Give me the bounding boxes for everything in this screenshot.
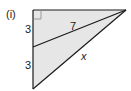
label-7: 7 xyxy=(70,20,76,32)
triangle-diagram: (i) 3 3 7 x xyxy=(0,0,131,91)
part-label: (i) xyxy=(6,8,16,20)
label-x: x xyxy=(80,50,87,62)
label-lower-3: 3 xyxy=(25,59,31,71)
label-upper-3: 3 xyxy=(25,23,31,35)
